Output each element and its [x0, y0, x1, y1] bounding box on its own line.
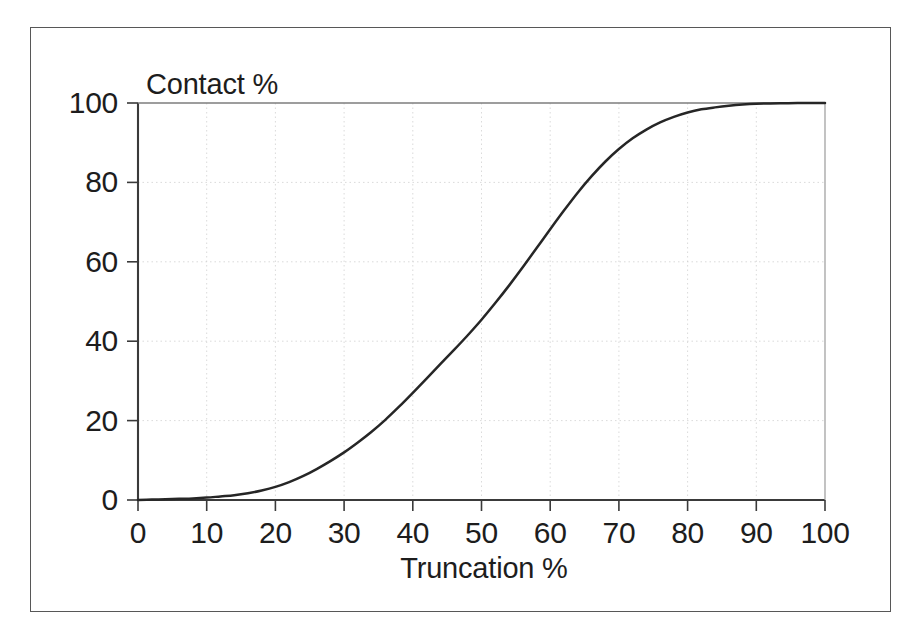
- x-axis-ticks: [138, 500, 825, 511]
- x-tick-label: 40: [396, 516, 429, 549]
- y-axis-ticks: [127, 103, 138, 500]
- x-axis-title: Truncation %: [400, 552, 567, 584]
- x-tick-label: 100: [800, 516, 849, 549]
- y-axis-tick-labels: 020406080100: [69, 86, 118, 516]
- y-tick-label: 100: [69, 86, 118, 119]
- vertical-gridlines: [207, 103, 757, 500]
- figure-root: 020406080100 0102030405060708090100 Cont…: [0, 0, 903, 630]
- x-tick-label: 80: [671, 516, 704, 549]
- x-tick-label: 50: [465, 516, 498, 549]
- x-tick-label: 20: [259, 516, 292, 549]
- chart-canvas: 020406080100 0102030405060708090100 Cont…: [0, 0, 903, 630]
- y-tick-label: 20: [85, 404, 118, 437]
- y-tick-label: 0: [102, 483, 118, 516]
- y-tick-label: 60: [85, 245, 118, 278]
- x-tick-label: 0: [130, 516, 146, 549]
- y-tick-label: 40: [85, 324, 118, 357]
- y-axis-title: Contact %: [146, 68, 278, 100]
- x-tick-label: 30: [328, 516, 361, 549]
- x-tick-label: 70: [603, 516, 636, 549]
- x-tick-label: 90: [740, 516, 773, 549]
- y-tick-label: 80: [85, 165, 118, 198]
- x-tick-label: 60: [534, 516, 567, 549]
- x-axis-tick-labels: 0102030405060708090100: [130, 516, 850, 549]
- x-tick-label: 10: [190, 516, 223, 549]
